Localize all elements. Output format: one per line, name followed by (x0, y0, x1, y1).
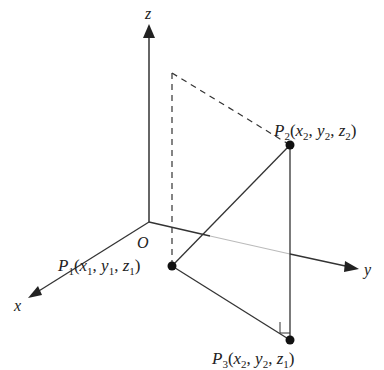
z-axis (143, 24, 155, 222)
origin-label: O (137, 234, 149, 251)
x-axis-label: x (13, 297, 21, 314)
segment-p1-p2 (172, 145, 290, 266)
right-angle-marker (280, 322, 290, 333)
z-axis-label: z (144, 5, 152, 22)
projection-dashed-lines (172, 73, 290, 266)
x-axis-arrow-icon (28, 286, 42, 298)
y-axis-label: y (362, 261, 372, 279)
segment-p1-p3 (172, 266, 290, 340)
point-p2-label: P2(x2, y2, z2) (273, 121, 356, 142)
y-axis-arrow-icon (344, 261, 359, 272)
point-p3-label: P3(x2, y2, z1) (211, 349, 294, 370)
point-p1-label: P1(x1, y1, z1) (57, 256, 140, 277)
point-p3 (286, 336, 295, 345)
diagram-canvas: z x y O P1(x1, y1, z1) P2(x2, y2, z2) P3… (0, 0, 384, 370)
triangle (172, 145, 290, 340)
y-axis (149, 222, 359, 272)
x-axis (28, 222, 149, 298)
z-axis-arrow-icon (143, 24, 155, 38)
point-p1 (168, 262, 177, 271)
